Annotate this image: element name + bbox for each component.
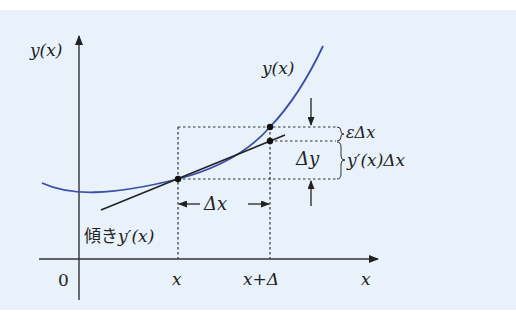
slope-label: 傾きy′(x) [84, 226, 154, 246]
derivative-diagram: y(x) y(x) 0 x x+Δ x Δx Δy εΔx y′(x)Δx 傾き… [0, 0, 516, 326]
delta-x-label: Δx [203, 193, 227, 214]
slope-expression: y′(x) [117, 226, 154, 246]
tangent-line [101, 135, 285, 210]
slope-prefix: 傾き [84, 226, 118, 246]
brace-epsilon [337, 127, 344, 141]
x-tick-label: x [172, 269, 182, 289]
point-q-tangent [267, 138, 273, 144]
point-p [175, 176, 181, 182]
epsilon-delta-x-label: εΔx [346, 123, 375, 142]
y-axis-label: y(x) [29, 40, 62, 60]
delta-y-label: Δy [295, 148, 320, 169]
derivative-delta-x-label: y′(x)Δx [346, 150, 406, 170]
origin-label: 0 [58, 270, 69, 290]
brace-derivative [337, 142, 345, 179]
x-plus-delta-label: x+Δ [243, 269, 279, 289]
x-axis-label: x [361, 269, 371, 289]
curve-label: y(x) [261, 58, 294, 78]
point-q-curve [267, 124, 273, 130]
